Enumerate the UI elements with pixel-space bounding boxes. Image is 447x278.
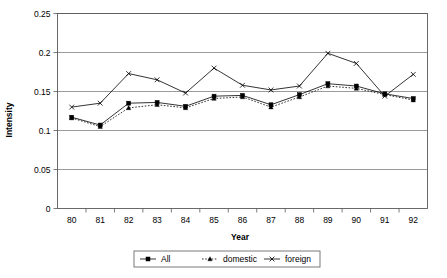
y-tick-label: 0.15 [34, 87, 51, 97]
line-chart: 00.050.10.150.20.25 80818283848586878889… [0, 0, 447, 278]
y-tick-label: 0.2 [39, 48, 51, 58]
chart-background [0, 0, 447, 278]
x-tick-label: 89 [323, 215, 333, 225]
x-tick-label: 85 [209, 215, 219, 225]
y-axis-title: Intensity [4, 102, 14, 137]
x-tick-label: 80 [67, 215, 77, 225]
x-axis-title: Year [231, 232, 250, 242]
y-tick-label: 0.1 [39, 126, 51, 136]
x-tick-label: 88 [295, 215, 305, 225]
legend-label: foreign [285, 254, 311, 264]
x-tick-label: 86 [238, 215, 248, 225]
x-tick-label: 81 [95, 215, 105, 225]
chart-canvas: 00.050.10.150.20.25 80818283848586878889… [0, 0, 447, 278]
y-tick-label: 0 [46, 204, 51, 214]
x-tick-label: 91 [380, 215, 390, 225]
legend-label: domestic [223, 254, 258, 264]
legend-label: All [161, 254, 171, 264]
x-tick-label: 82 [124, 215, 134, 225]
marker-square [127, 101, 131, 105]
x-tick-label: 84 [181, 215, 191, 225]
x-tick-label: 87 [266, 215, 276, 225]
x-tick-label: 83 [152, 215, 162, 225]
marker-square [146, 257, 150, 261]
y-tick-label: 0.25 [34, 9, 51, 19]
x-tick-label: 92 [409, 215, 419, 225]
x-tick-label: 90 [352, 215, 362, 225]
chart-legend: Alldomesticforeign [134, 251, 320, 267]
y-tick-label: 0.05 [34, 165, 51, 175]
